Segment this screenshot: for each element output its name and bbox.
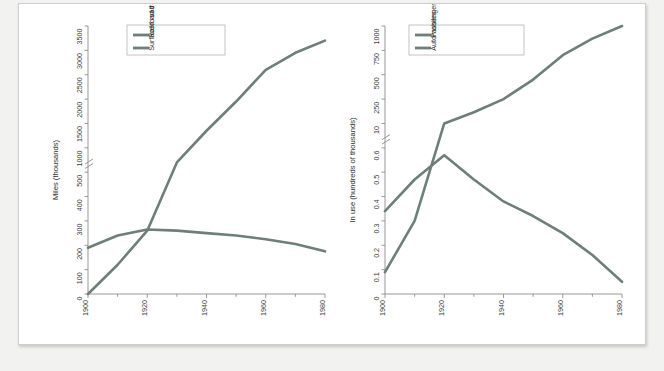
y-tick-label: 0.2 (372, 248, 381, 258)
y-tick-label: 100 (75, 272, 84, 284)
series-line-2 (88, 41, 325, 294)
y-tick-label: 3500 (75, 29, 84, 45)
y-tick-label: 400 (75, 199, 84, 211)
series-line-2 (385, 26, 622, 272)
x-tick-label: 1920 (140, 300, 149, 316)
legend-box (127, 25, 225, 55)
legend: Passenger train carsAutomobiles (409, 4, 524, 55)
y-tick-label: 2000 (75, 102, 84, 118)
y-tick-label: 2500 (75, 77, 84, 93)
x-tick-label: 1940 (200, 300, 209, 316)
y-tick-label: 500 (75, 175, 84, 187)
y-tick-label: 0.6 (372, 150, 381, 160)
x-tick-label: 1960 (556, 300, 565, 316)
y-tick-label: 0.5 (372, 175, 381, 185)
legend-label-2: Surfaced road (147, 6, 156, 51)
x-tick-label: 1940 (497, 300, 506, 316)
y-tick-label: 750 (372, 53, 381, 65)
left-chart: 0100200300400500100015002000250030003500… (51, 4, 327, 316)
series-line-1 (385, 155, 622, 282)
y-tick-label: 0 (75, 297, 84, 301)
x-tick-label: 1960 (259, 300, 268, 316)
y-tick-label: 0.1 (372, 272, 381, 282)
y-tick-label: 0.3 (372, 224, 381, 234)
y-tick-label: 0.4 (372, 199, 381, 209)
y-tick-label: 1500 (75, 126, 84, 142)
legend: Railroad trackSurfaced road (127, 4, 225, 55)
right-chart: 00.10.20.30.40.50.6102505007501000190019… (348, 4, 624, 316)
x-tick-label: 1980 (318, 300, 327, 316)
charts-svg: 0100200300400500100015002000250030003500… (19, 4, 647, 346)
y-tick-label: 200 (75, 248, 84, 260)
axis-break-mark (382, 135, 390, 140)
axis-break-mark (85, 164, 93, 169)
axis-break-mark (382, 139, 390, 144)
y-tick-label: 500 (372, 77, 381, 89)
y-tick-label: 1000 (372, 29, 381, 45)
y-axis-title: Miles (thousands) (51, 140, 60, 200)
x-tick-label: 1900 (378, 300, 387, 316)
y-axis-title: In use (hundreds of thousands) (348, 117, 357, 223)
series-line-1 (88, 229, 325, 251)
figure-page: 0100200300400500100015002000250030003500… (18, 3, 646, 345)
legend-label-2: Automobiles (429, 11, 438, 51)
y-tick-label: 3000 (75, 53, 84, 69)
x-tick-label: 1900 (81, 300, 90, 316)
figure-canvas: 0100200300400500100015002000250030003500… (19, 4, 645, 344)
y-tick-label: 10 (372, 126, 381, 134)
y-tick-label: 0 (372, 297, 381, 301)
y-tick-label: 1000 (75, 150, 84, 166)
y-tick-label: 250 (372, 102, 381, 114)
x-tick-label: 1980 (615, 300, 624, 316)
y-tick-label: 300 (75, 224, 84, 236)
axis-break-mark (85, 159, 93, 164)
legend-box (409, 25, 524, 55)
x-tick-label: 1920 (437, 300, 446, 316)
